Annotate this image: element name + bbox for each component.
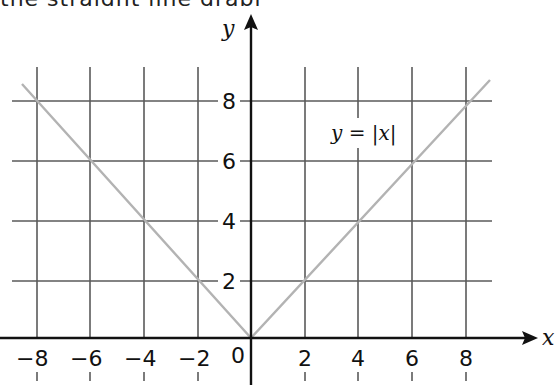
y-tick-4: 4: [222, 209, 236, 234]
chart-canvas: x y 8 6 4 2 −8 −6 −4 −2 2 4 6 8 0 y = |x…: [0, 0, 560, 385]
x-axis-label: x: [542, 325, 555, 350]
x-tick-neg4: −4: [124, 346, 156, 371]
y-axis-label: y: [221, 16, 235, 41]
x-tick-labels: −8 −6 −4 −2 2 4 6 8 0: [16, 343, 473, 371]
x-tick-4: 4: [351, 346, 365, 371]
y-tick-labels: 8 6 4 2: [219, 88, 239, 294]
x-tick-2: 2: [298, 346, 312, 371]
y-tick-2: 2: [222, 269, 236, 294]
x-tick-6: 6: [405, 346, 419, 371]
x-tick-neg6: −6: [70, 346, 102, 371]
x-tick-neg2: −2: [178, 346, 210, 371]
x-tick-8: 8: [459, 346, 473, 371]
x-tick-neg8: −8: [16, 346, 48, 371]
equation-label: y = |x|: [330, 121, 397, 146]
origin-label: 0: [231, 343, 245, 368]
abs-function-curve: [22, 80, 490, 338]
y-tick-8: 8: [222, 89, 236, 114]
y-tick-6: 6: [222, 149, 236, 174]
